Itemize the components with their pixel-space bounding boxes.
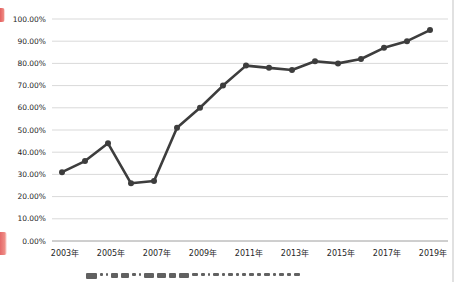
caption-glyph-fragment: [106, 273, 108, 276]
data-point: [427, 27, 433, 33]
caption-glyph-fragment: [179, 273, 189, 278]
caption-glyph-fragment: [242, 273, 246, 276]
data-point: [59, 169, 65, 175]
y-tick-label: 50.00%: [17, 126, 46, 135]
caption-glyph-fragment: [157, 273, 166, 278]
x-axis-labels: 2003年2005年2007年2009年2011年2013年2015年2017年…: [51, 248, 447, 258]
x-tick-label: 2013年: [281, 248, 309, 258]
data-point: [82, 158, 88, 164]
y-axis-labels: 100.00%90.00%80.00%70.00%60.00%50.00%40.…: [13, 15, 46, 246]
caption-glyph-fragment: [86, 273, 97, 279]
data-point: [358, 56, 364, 62]
data-point: [105, 140, 111, 146]
x-tick-label: 2017年: [373, 248, 401, 258]
caption-glyph-fragment: [249, 273, 254, 276]
y-tick-label: 40.00%: [17, 148, 46, 157]
y-tick-label: 20.00%: [17, 192, 46, 201]
caption-glyph-fragment: [139, 273, 141, 276]
caption-glyph-fragment: [144, 273, 154, 278]
x-tick-label: 2003年: [51, 248, 79, 258]
caption-glyph-fragment: [287, 273, 291, 276]
caption-glyph-fragment: [228, 273, 233, 276]
data-point: [289, 67, 295, 73]
caption-glyph-fragment: [273, 273, 276, 276]
caption-glyph-fragment: [294, 273, 300, 276]
scanned-page: 100.00%90.00%80.00%70.00%60.00%50.00%40.…: [0, 0, 456, 282]
data-point: [404, 38, 410, 44]
caption-glyph-fragment: [222, 273, 225, 276]
caption-glyph-fragment: [213, 273, 219, 276]
data-point: [174, 125, 180, 131]
y-tick-label: 80.00%: [17, 59, 46, 68]
x-tick-label: 2015年: [327, 248, 355, 258]
caption-glyph-fragment: [169, 273, 176, 278]
caption-glyph-fragment: [264, 273, 270, 276]
caption-glyph-fragment: [192, 273, 198, 276]
x-tick-label: 2011年: [235, 248, 263, 258]
data-series-line: [62, 30, 430, 183]
x-tick-label: 2009年: [189, 248, 217, 258]
caption-glyph-fragment: [257, 273, 261, 276]
caption-glyph-fragment: [279, 273, 284, 276]
y-tick-label: 10.00%: [17, 214, 46, 223]
x-tick-label: 2007年: [143, 248, 171, 258]
caption-glyph-fragment: [100, 273, 103, 276]
x-tick-label: 2019年: [419, 248, 447, 258]
y-tick-label: 30.00%: [17, 170, 46, 179]
gridlines: [52, 19, 448, 241]
caption-glyph-fragment: [111, 273, 118, 278]
y-tick-label: 90.00%: [17, 37, 46, 46]
caption-glyph-fragment: [236, 273, 239, 276]
data-point: [151, 178, 157, 184]
caption-glyph-fragment: [132, 273, 136, 276]
caption-glyph-fragment: [201, 273, 205, 276]
truncated-caption: [86, 273, 303, 282]
data-point: [220, 83, 226, 89]
data-point: [243, 63, 249, 69]
y-tick-label: 100.00%: [13, 15, 46, 24]
x-tick-label: 2005年: [97, 248, 125, 258]
data-point: [312, 58, 318, 64]
data-point: [335, 60, 341, 66]
data-point: [266, 65, 272, 71]
caption-glyph-fragment: [121, 273, 129, 278]
data-point: [128, 180, 134, 186]
data-point: [381, 45, 387, 51]
y-tick-label: 70.00%: [17, 81, 46, 90]
data-point: [197, 105, 203, 111]
line-chart: 100.00%90.00%80.00%70.00%60.00%50.00%40.…: [0, 0, 456, 268]
y-tick-label: 60.00%: [17, 103, 46, 112]
caption-glyph-fragment: [208, 273, 210, 276]
y-tick-label: 0.00%: [22, 237, 46, 246]
